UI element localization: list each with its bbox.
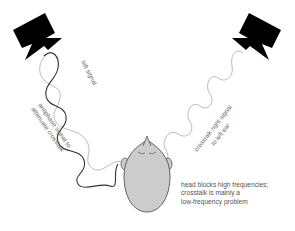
left-signal-label: left signal	[79, 59, 99, 86]
note-line-2: crosstalk is mainly a	[181, 189, 268, 197]
note-line-3: low-frequency problem	[181, 198, 268, 206]
left-speaker-icon	[13, 13, 62, 60]
note-line-1: head blocks high frequencies;	[181, 181, 268, 189]
right-speaker-icon	[232, 13, 281, 60]
head-blocks-note: head blocks high frequencies; crosstalk …	[181, 181, 268, 206]
